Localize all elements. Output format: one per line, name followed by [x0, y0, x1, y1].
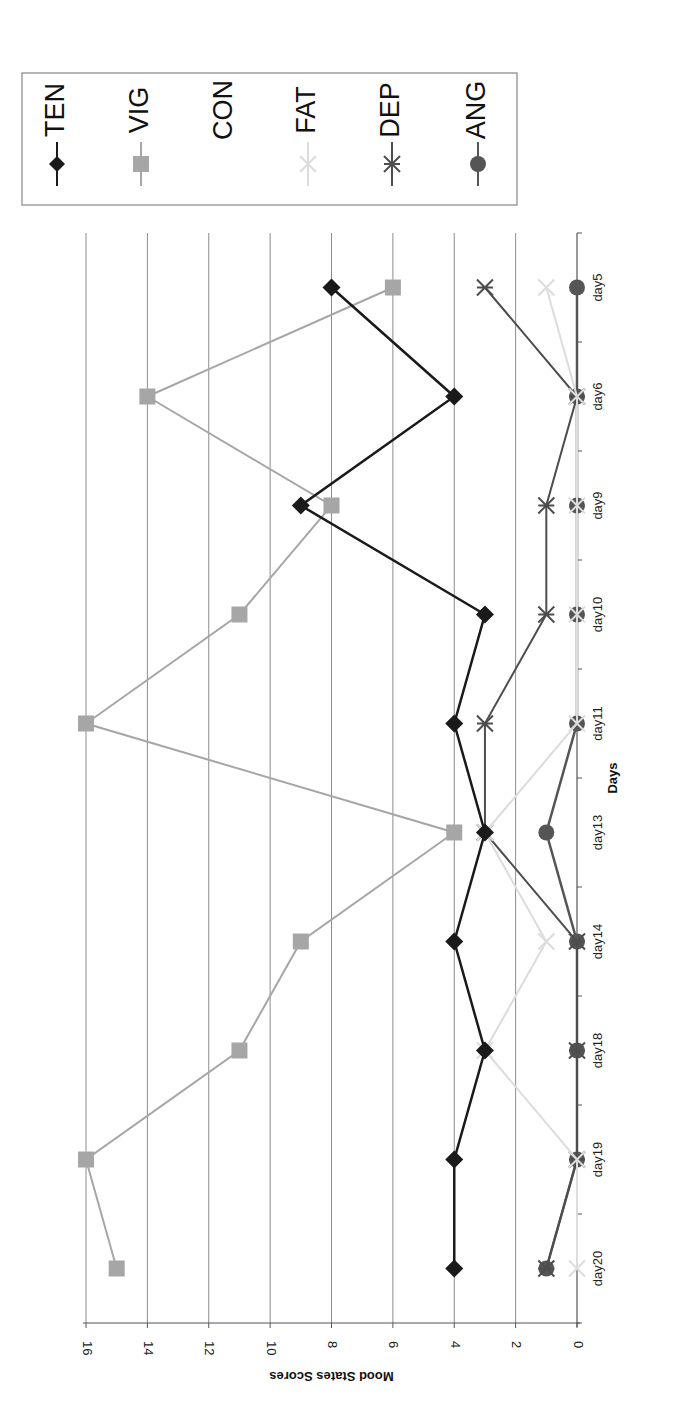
legend-label: FAT: [291, 86, 321, 134]
square-marker-icon: [446, 825, 462, 841]
value-tick-label: 6: [386, 1341, 401, 1348]
axis-labels: 0246810121416day5day6day9day10day11day13…: [80, 273, 621, 1383]
legend-label: TEN: [40, 83, 70, 137]
category-label: day9: [590, 491, 605, 519]
value-tick-label: 0: [571, 1341, 586, 1348]
asterisk-marker-icon: [477, 280, 493, 296]
square-marker-icon: [231, 1043, 247, 1059]
circle-marker-icon: [470, 156, 486, 172]
category-label: day10: [590, 597, 605, 632]
legend-label: VIG: [124, 87, 154, 134]
category-label: day6: [590, 382, 605, 410]
value-tick-label: 16: [80, 1341, 95, 1355]
value-tick-label: 10: [264, 1341, 279, 1355]
legend-box: [22, 73, 517, 205]
series-line: [485, 288, 577, 1269]
category-label: day5: [590, 273, 605, 301]
category-label: day11: [590, 706, 605, 740]
circle-marker-icon: [538, 825, 554, 841]
value-tick-label: 14: [141, 1341, 156, 1355]
category-label: day20: [590, 1251, 605, 1286]
legend-label: DEP: [375, 82, 405, 138]
square-marker-icon: [78, 1152, 94, 1168]
category-label: day19: [590, 1142, 605, 1177]
diamond-marker-icon: [445, 1151, 463, 1169]
x-marker-icon: [538, 934, 554, 950]
value-tick-label: 4: [448, 1341, 463, 1348]
series-line: [546, 288, 577, 1269]
y-axis-title: Mood States Scores: [269, 1369, 393, 1384]
axes: [83, 233, 582, 1328]
square-marker-icon: [293, 934, 309, 950]
diamond-marker-icon: [445, 933, 463, 951]
legend: TENVIGCONFATDEPANG: [22, 73, 517, 205]
square-marker-icon: [324, 498, 340, 514]
square-marker-icon: [231, 607, 247, 623]
legend-item-con: CON: [208, 80, 238, 140]
square-marker-icon: [139, 389, 155, 405]
category-label: day13: [590, 815, 605, 850]
legend-label: ANG: [461, 81, 491, 140]
diamond-marker-icon: [292, 497, 310, 515]
value-tick-label: 2: [509, 1341, 524, 1348]
square-marker-icon: [78, 716, 94, 732]
mood-states-line-chart: TENVIGCONFATDEPANG 0246810121416day5day6…: [0, 0, 678, 1423]
circle-marker-icon: [569, 280, 585, 296]
value-tick-label: 12: [202, 1341, 217, 1355]
diamond-marker-icon: [445, 1260, 463, 1278]
square-marker-icon: [109, 1261, 125, 1277]
diamond-marker-icon: [445, 715, 463, 733]
square-marker-icon: [133, 156, 149, 172]
diamond-marker-icon: [476, 606, 494, 624]
value-tick-label: 8: [325, 1341, 340, 1348]
legend-label: CON: [208, 80, 238, 140]
x-axis-title: Days: [605, 762, 620, 793]
category-label: day18: [590, 1033, 605, 1068]
square-marker-icon: [385, 280, 401, 296]
category-label: day14: [590, 924, 605, 959]
x-marker-icon: [538, 280, 554, 296]
